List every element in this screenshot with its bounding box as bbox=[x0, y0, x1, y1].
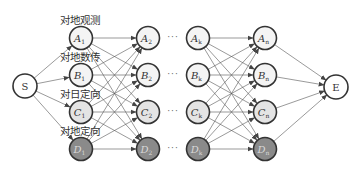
category-label-A: 对地观测 bbox=[60, 14, 100, 26]
node-B-1: B1 bbox=[70, 64, 93, 87]
node-label: E bbox=[332, 82, 339, 93]
node-C-n: Cn bbox=[254, 101, 277, 124]
category-label-B: 对地数传 bbox=[60, 51, 100, 63]
node-A-1: A1 bbox=[70, 27, 93, 50]
node-D-2: D2 bbox=[137, 138, 160, 161]
node-A-2: A2 bbox=[137, 27, 160, 50]
edge-arrow bbox=[276, 91, 325, 108]
edge-arrow bbox=[274, 95, 327, 142]
ellipsis: ··· bbox=[167, 32, 179, 42]
node-A-k: Ak bbox=[187, 27, 210, 50]
node-C-k: Ck bbox=[187, 101, 210, 124]
source-node: S bbox=[13, 74, 37, 98]
node-D-k: Dk bbox=[187, 138, 210, 161]
layered-graph-diagram: ············ SEA1B1C1D1A2B2C2D2AkBkCkDkA… bbox=[0, 0, 357, 171]
node-C-2: C2 bbox=[137, 101, 160, 124]
edge-arrow bbox=[36, 77, 69, 83]
node-C-1: C1 bbox=[70, 101, 93, 124]
ellipsis: ··· bbox=[167, 69, 179, 79]
node-B-k: Bk bbox=[187, 64, 210, 87]
edge-arrow bbox=[276, 77, 324, 85]
ellipsis: ··· bbox=[167, 106, 179, 116]
sink-node: E bbox=[324, 75, 348, 99]
node-B-2: B2 bbox=[137, 64, 160, 87]
node-D-1: D1 bbox=[70, 138, 93, 161]
edge-arrow bbox=[274, 45, 326, 81]
category-label-C: 对日定向 bbox=[60, 88, 100, 100]
node-A-n: An bbox=[254, 27, 277, 50]
node-B-n: Bn bbox=[254, 64, 277, 87]
ellipsis-group: ············ bbox=[167, 32, 179, 153]
category-label-D: 对地定向 bbox=[60, 125, 100, 137]
ellipsis: ··· bbox=[167, 143, 179, 153]
node-D-n: Dn bbox=[254, 138, 277, 161]
node-label: S bbox=[22, 81, 29, 92]
